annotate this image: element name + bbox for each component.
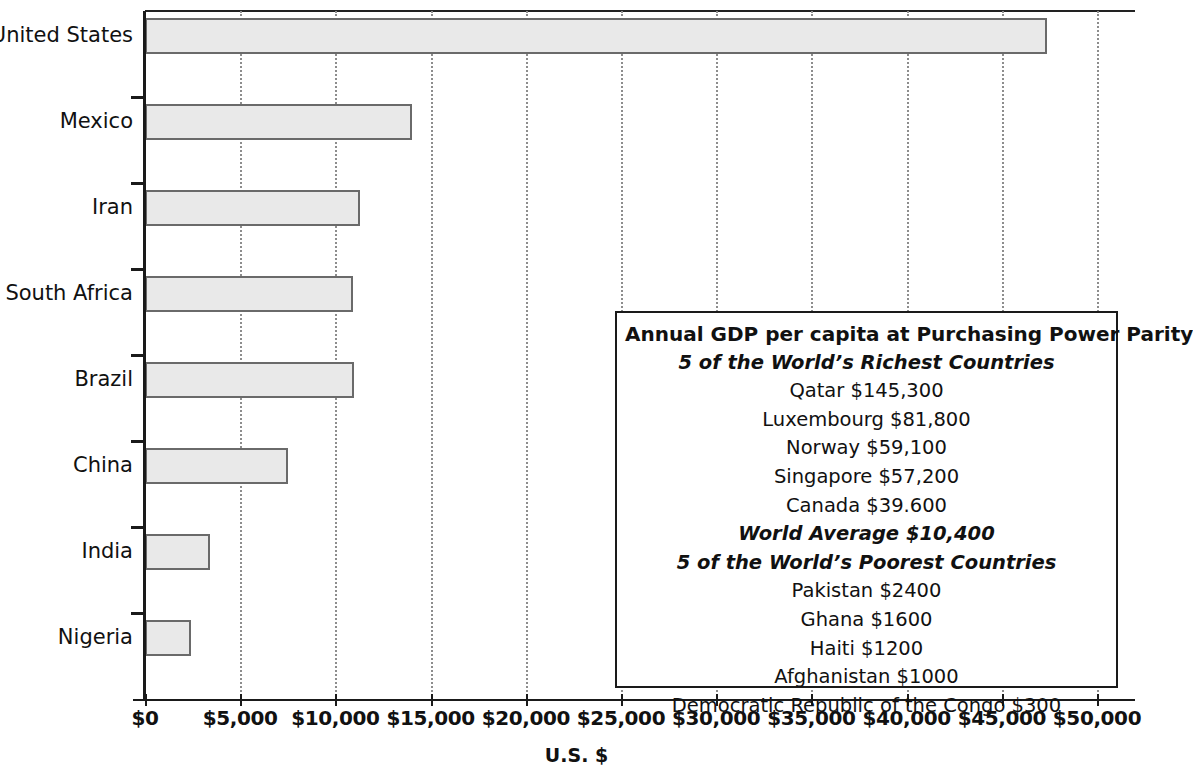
y-axis-tick — [131, 182, 145, 185]
y-axis-tick — [131, 440, 145, 443]
bar-united-states — [145, 18, 1047, 54]
y-axis-label-india: India — [81, 541, 133, 562]
x-axis-tick-label: $20,000 — [482, 706, 570, 730]
x-axis-tick — [335, 694, 337, 706]
annotation-poorest-item: Haiti $1200 — [625, 635, 1108, 664]
annotation-poorest-heading: 5 of the World’s Poorest Countries — [625, 549, 1108, 578]
x-axis-tick-label: $0 — [131, 706, 158, 730]
gridline — [526, 11, 528, 699]
x-axis-tick — [145, 694, 147, 706]
bar-nigeria — [145, 620, 191, 656]
y-axis-label-iran: Iran — [92, 197, 133, 218]
annotation-richest-item: Norway $59,100 — [625, 434, 1108, 463]
annotation-poorest-item: Afghanistan $1000 — [625, 663, 1108, 692]
bar-china — [145, 448, 288, 484]
y-axis-tick — [131, 526, 145, 529]
x-axis-tick — [240, 694, 242, 706]
x-axis-title: U.S. $ — [0, 744, 1135, 766]
bar-south-africa — [145, 276, 353, 312]
bar-india — [145, 534, 210, 570]
y-axis-tick — [131, 96, 145, 99]
x-axis-title-text: U.S. $ — [545, 744, 608, 766]
annotation-title: Annual GDP per capita at Purchasing Powe… — [625, 320, 1108, 349]
y-axis-tick — [131, 354, 145, 357]
gridline — [431, 11, 433, 699]
bar-mexico — [145, 104, 412, 140]
bar-brazil — [145, 362, 354, 398]
annotation-box: Annual GDP per capita at Purchasing Powe… — [615, 311, 1118, 688]
x-axis-tick-label: $5,000 — [203, 706, 278, 730]
plot-top-rule — [145, 10, 1135, 12]
x-axis-tick — [431, 694, 433, 706]
annotation-richest-heading: 5 of the World’s Richest Countries — [625, 349, 1108, 378]
y-axis-tick — [131, 268, 145, 271]
annotation-richest-item: Singapore $57,200 — [625, 463, 1108, 492]
y-axis-label-china: China — [73, 455, 133, 476]
annotation-richest-item: Canada $39.600 — [625, 492, 1108, 521]
y-axis-label-united-states: United States — [0, 25, 133, 46]
annotation-richest-item: Luxembourg $81,800 — [625, 406, 1108, 435]
x-axis-tick-label: $15,000 — [386, 706, 474, 730]
y-axis-label-mexico: Mexico — [60, 111, 133, 132]
annotation-poorest-item: Democratic Republic of the Congo $300 — [625, 692, 1108, 721]
y-axis-label-brazil: Brazil — [74, 369, 133, 390]
annotation-poorest-item: Ghana $1600 — [625, 606, 1108, 635]
annotation-world-average: World Average $10,400 — [625, 520, 1108, 549]
x-axis-tick — [621, 694, 623, 706]
y-axis-label-nigeria: Nigeria — [58, 627, 133, 648]
y-axis-label-south-africa: South Africa — [5, 283, 133, 304]
annotation-poorest-item: Pakistan $2400 — [625, 577, 1108, 606]
x-axis-tick-label: $10,000 — [291, 706, 379, 730]
x-axis-tick — [526, 694, 528, 706]
y-axis-tick — [131, 612, 145, 615]
bar-iran — [145, 190, 360, 226]
annotation-richest-item: Qatar $145,300 — [625, 377, 1108, 406]
